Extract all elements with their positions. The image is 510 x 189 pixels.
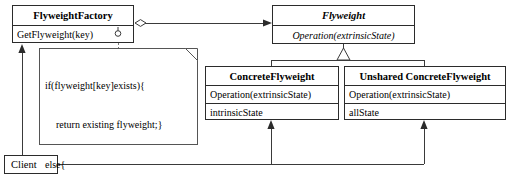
note-line-1: if(flyweight[key]exists){ [45,79,194,92]
note-line-3: else{ [45,158,194,171]
class-name-flyweight: Flyweight [273,6,414,25]
class-unshared-concrete-flyweight[interactable]: Unshared ConcreteFlyweight Operation(ext… [344,66,506,120]
class-name-flyweight-factory: FlyweightFactory [13,6,133,25]
class-flyweight[interactable]: Flyweight Operation(extrinsicState) [272,5,415,44]
line-client-to-concrete [271,128,272,164]
line-client-to-unshared [424,128,425,164]
note-line-2: return existing flyweight;} [45,118,194,131]
line-client-to-factory [22,50,23,155]
member-flyweight-operation: Operation(extrinsicState) [273,25,414,44]
class-flyweight-factory[interactable]: FlyweightFactory GetFlyweight(key) [12,5,134,43]
member-get-flyweight: GetFlyweight(key) [13,25,133,43]
member-concrete-operation: Operation(extrinsicState) [206,85,338,103]
class-name-concrete-flyweight: ConcreteFlyweight [206,67,338,85]
class-concrete-flyweight[interactable]: ConcreteFlyweight Operation(extrinsicSta… [205,66,339,120]
line-generalization-bar [271,60,424,61]
member-unshared-operation: Operation(extrinsicState) [345,85,505,103]
member-intrinsic-state: intrinsicState [206,103,338,121]
line-factory-to-flyweight [140,23,268,24]
uml-class-diagram: FlyweightFactory GetFlyweight(key) Flywe… [0,0,510,189]
member-all-state: allState [345,103,505,121]
note-box: if(flyweight[key]exists){ return existin… [39,48,198,145]
line-flyweight-down [343,44,344,56]
note-text: if(flyweight[key]exists){ return existin… [45,53,194,189]
class-name-unshared-concrete-flyweight: Unshared ConcreteFlyweight [345,67,505,85]
